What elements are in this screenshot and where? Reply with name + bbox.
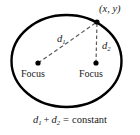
focus-right-dot: [93, 60, 98, 65]
equation-constant: constant: [72, 114, 107, 125]
d2-subscript: 2: [107, 45, 110, 52]
segment-d2-line: [96, 22, 97, 63]
equation-d2-subscript: 2: [57, 119, 60, 126]
ellipse-outline: [12, 15, 122, 107]
point-xy-dot: [94, 19, 99, 24]
segment-d2-label: d2: [102, 41, 111, 52]
equation-equals: =: [63, 114, 69, 125]
equation-d1-subscript: 1: [38, 119, 41, 126]
point-xy-label: (x, y): [99, 4, 121, 15]
equation-caption: d1+d2=constant: [0, 115, 140, 126]
ellipse-figure: (x, y) d1 d2 Focus Focus d1+d2=constant: [0, 0, 140, 135]
segment-d1-label: d1: [57, 34, 66, 45]
focus-left-dot: [35, 60, 40, 65]
equation-d2-symbol: d: [52, 114, 57, 125]
focus-right-label: Focus: [79, 69, 103, 79]
equation-plus: +: [44, 114, 50, 125]
focus-left-label: Focus: [21, 69, 45, 79]
d1-subscript: 1: [62, 38, 65, 45]
segment-d1-line: [38, 22, 97, 63]
